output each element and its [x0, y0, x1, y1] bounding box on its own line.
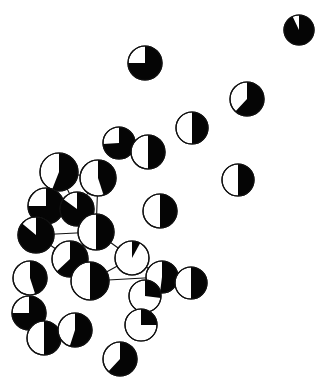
pie-node[interactable] [40, 153, 78, 191]
pie-node[interactable] [176, 112, 208, 144]
pie-node[interactable] [129, 280, 161, 312]
pie-node[interactable] [58, 313, 92, 347]
pie-node[interactable] [230, 82, 264, 116]
pie-node[interactable] [222, 164, 254, 196]
figure-canvas [0, 0, 326, 389]
pie-node[interactable] [128, 46, 162, 80]
pie-glyph-network-svg [0, 0, 326, 389]
pie-node[interactable] [103, 342, 137, 376]
pie-node[interactable] [80, 160, 116, 196]
pie-node[interactable] [78, 214, 114, 250]
pie-node[interactable] [131, 135, 165, 169]
pie-node[interactable] [175, 267, 207, 299]
pie-node[interactable] [71, 262, 109, 300]
pie-node[interactable] [284, 15, 314, 45]
pie-node[interactable] [125, 309, 157, 341]
pie-node[interactable] [115, 241, 149, 275]
pie-node[interactable] [18, 217, 54, 253]
pie-node[interactable] [13, 261, 47, 295]
pie-node[interactable] [27, 321, 61, 355]
pie-node[interactable] [103, 127, 135, 159]
pie-node[interactable] [143, 194, 177, 228]
